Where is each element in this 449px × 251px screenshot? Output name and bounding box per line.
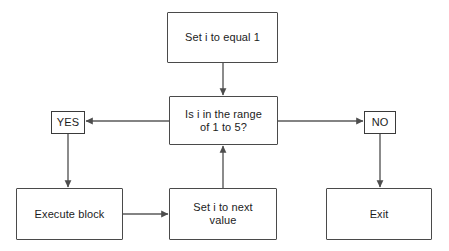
node-label: Set i to next value	[189, 201, 256, 227]
node-label: Exit	[366, 208, 393, 221]
node-exit[interactable]: Exit	[326, 188, 432, 240]
node-set-i-to-equal-1[interactable]: Set i to equal 1	[167, 12, 278, 63]
node-label: YES	[53, 116, 83, 129]
node-yes-label[interactable]: YES	[51, 111, 85, 134]
node-no-label[interactable]: NO	[364, 111, 396, 134]
node-set-i-to-next-value[interactable]: Set i to next value	[169, 188, 277, 240]
node-label: Execute block	[31, 208, 109, 221]
node-label: NO	[368, 116, 393, 129]
node-label: Set i to equal 1	[181, 31, 264, 44]
flowchart-canvas: Set i to equal 1 Is i in the range of 1 …	[0, 0, 449, 251]
node-label: Is i in the range of 1 to 5?	[181, 108, 266, 134]
node-execute-block[interactable]: Execute block	[16, 188, 123, 240]
node-condition-is-i-in-range[interactable]: Is i in the range of 1 to 5?	[169, 96, 278, 145]
